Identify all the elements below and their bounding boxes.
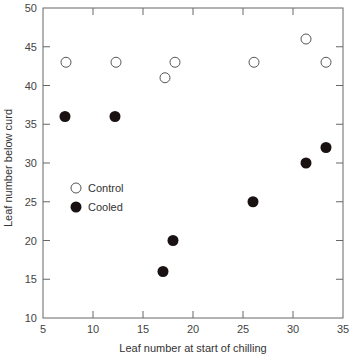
cooled-point [60,111,71,122]
control-point [170,57,180,67]
cooled-point [301,158,312,169]
plot-border [43,8,343,318]
x-axis-title: Leaf number at start of chilling [119,342,266,354]
control-point [301,34,311,44]
y-tick-label: 35 [25,118,37,130]
y-tick-label: 10 [25,312,37,324]
y-tick-label: 30 [25,157,37,169]
legend-cooled-marker [71,202,82,213]
control-point [61,57,71,67]
x-tick-label: 20 [187,323,199,335]
control-point [321,57,331,67]
data-points [60,34,332,277]
axis-ticks: 5101520253035101520253035404550 [25,2,349,335]
control-point [160,73,170,83]
x-tick-label: 25 [237,323,249,335]
cooled-point [110,111,121,122]
cooled-point [158,266,169,277]
control-point [249,57,259,67]
y-tick-label: 45 [25,41,37,53]
y-tick-label: 15 [25,273,37,285]
x-tick-label: 15 [137,323,149,335]
legend-control-marker [71,183,81,193]
x-tick-label: 5 [40,323,46,335]
control-point [111,57,121,67]
y-tick-label: 25 [25,196,37,208]
cooled-point [168,235,179,246]
y-tick-label: 50 [25,2,37,14]
legend-control-label: Control [88,182,123,194]
x-tick-label: 10 [87,323,99,335]
y-tick-label: 40 [25,80,37,92]
plot-frame [43,8,343,318]
cooled-point [248,196,259,207]
scatter-chart: 5101520253035101520253035404550 Control … [0,0,357,356]
legend-cooled-label: Cooled [88,201,123,213]
y-tick-label: 20 [25,235,37,247]
x-tick-label: 35 [337,323,349,335]
x-tick-label: 30 [287,323,299,335]
legend: Control Cooled [71,182,124,213]
y-axis-title: Leaf number below curd [2,109,14,227]
cooled-point [321,142,332,153]
